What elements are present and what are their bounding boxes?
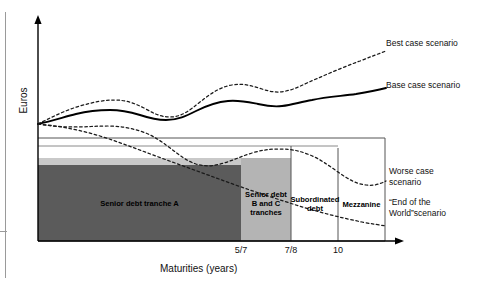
x-axis-title: Maturities (years) [160, 263, 237, 274]
annotation-best-case: Best case scenario [386, 38, 458, 49]
curve-best-case [38, 51, 386, 124]
x-tick-label-2: 7/8 [276, 245, 306, 255]
tranche-label-mezzanine: Mezzanine [338, 200, 385, 209]
tranche-label-subordinated: Subordinated debt [289, 195, 341, 213]
y-axis-title: Euros [18, 71, 29, 131]
figure-root: Best case scenario Base case scenario Wo… [0, 0, 488, 290]
annotation-end-of-world: “End of the World”scenario [389, 197, 446, 218]
annotation-worse-case: Worse case scenario [389, 166, 434, 187]
tranche-strip-senior-a [38, 158, 241, 165]
x-tick-label-3: 10 [323, 245, 353, 255]
y-axis-arrow [34, 15, 41, 24]
tranche-label-senior-a: Senior debt tranche A [38, 199, 241, 208]
x-axis-arrow [395, 237, 404, 244]
annotation-base-case: Base case scenario [386, 80, 460, 91]
tranche-label-senior-bc: Senior debt B and C tranches [239, 190, 293, 218]
x-tick-label-1: 5/7 [226, 245, 256, 255]
